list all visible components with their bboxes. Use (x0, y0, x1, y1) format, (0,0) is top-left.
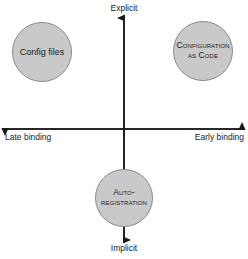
bubble-auto-registration-line1: Auto- (113, 187, 135, 197)
bubble-auto-registration-label: Auto-registration (96, 188, 152, 208)
axis-label-explicit: Explicit (0, 3, 248, 13)
axis-label-early-binding: Early binding (195, 132, 244, 142)
quadrant-diagram: Explicit Implicit Late binding Early bin… (0, 0, 248, 259)
bubble-config-files-label: Config files (15, 47, 70, 57)
bubble-auto-registration: Auto-registration (95, 169, 153, 227)
bubble-configuration-as-code-label: Configurationas Code (172, 41, 235, 61)
axis-label-implicit: Implicit (0, 243, 248, 253)
axis-label-late-binding: Late binding (5, 132, 51, 142)
bubble-configuration-as-code-line2: as Code (188, 50, 218, 60)
bubble-configuration-as-code: Configurationas Code (173, 21, 233, 81)
bubble-configuration-as-code-line1: Configuration (177, 40, 230, 50)
bubble-auto-registration-line2: registration (101, 197, 147, 207)
bubble-config-files: Config files (12, 22, 72, 82)
